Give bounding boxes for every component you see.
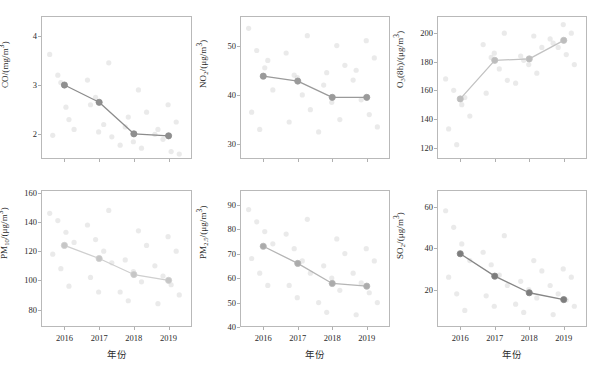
scatter-point [513,302,518,307]
scatter-point [548,283,553,288]
scatter-point [489,262,494,267]
chart-panel-so2: 204060SO2/(μg/m3)2016201720182019年份 [0,0,592,375]
scatter-point [443,208,448,213]
scatter-point [556,291,561,296]
scatter-point [462,308,467,313]
data-point-marker [457,251,463,257]
scatter-point [518,279,523,284]
data-point-marker [526,290,532,296]
scatter-point [481,250,486,255]
scatter-point [484,293,489,298]
series-layer-so2 [0,0,592,375]
trend-line-so2 [460,254,564,300]
figure-air-quality-trends: 234CO/(mg/m3)304050NO2/(μg/m3)1201401601… [0,0,592,375]
scatter-point [561,266,566,271]
scatter-point [492,304,497,309]
data-point-marker [492,273,498,279]
scatter-point [569,275,574,280]
scatter-point [551,312,556,317]
scatter-point [502,233,507,238]
scatter-point [534,295,539,300]
scatter-point [451,225,456,230]
scatter-point [539,268,544,273]
scatter-point [531,258,536,263]
scatter-point [454,291,459,296]
scatter-point [459,241,464,246]
data-point-marker [561,297,567,303]
scatter-point [446,275,451,280]
scatter-point [521,310,526,315]
scatter-point [572,304,577,309]
